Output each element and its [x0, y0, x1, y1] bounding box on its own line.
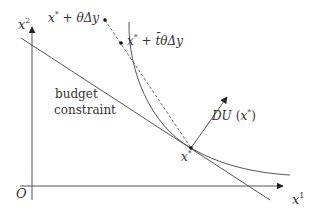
optimum-label: x* [181, 149, 192, 164]
perturbed-point-dot [103, 18, 107, 22]
budget-label-line1: budget [55, 87, 98, 101]
utility-diagram: x2 x1 O budget constraint DU(x*) x* x* +… [0, 0, 322, 211]
perturbed-point-label: x* + θΔy [48, 10, 99, 25]
y-axis-label: x2 [18, 16, 30, 32]
budget-label-line2: constraint [54, 103, 116, 117]
x-axis-label: x1 [292, 191, 304, 207]
origin-label: O [16, 186, 27, 201]
intersection-point-dot [119, 41, 123, 45]
budget-constraint-line [21, 38, 270, 200]
gradient-label: DU(x*) [211, 108, 256, 123]
intersection-point-label: x* + t̄θΔy [127, 32, 183, 48]
